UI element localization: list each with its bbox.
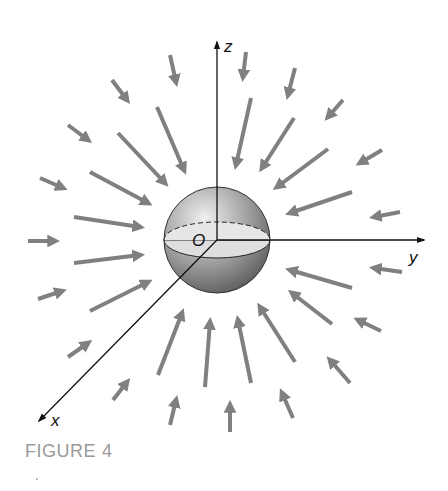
- origin-label: O: [192, 231, 205, 250]
- field-arrow-long: [74, 217, 140, 227]
- field-arrow-long: [205, 322, 210, 387]
- field-arrow-long: [90, 172, 148, 203]
- caption-label: FIGURE: [25, 441, 96, 461]
- field-arrow-long: [157, 107, 184, 170]
- field-arrow-long: [158, 313, 182, 375]
- field-arrow-short: [68, 125, 88, 140]
- field-arrow-long: [290, 270, 352, 288]
- field-arrow-long: [238, 320, 251, 383]
- field-arrow-short: [374, 212, 400, 217]
- vector-field-figure: z y x O: [0, 0, 448, 491]
- stray-mark: [36, 478, 38, 480]
- field-arrow-short: [328, 100, 343, 117]
- x-axis-label: x: [50, 411, 60, 430]
- field-arrow-short: [243, 52, 246, 77]
- field-arrow-long: [260, 307, 295, 362]
- field-arrow-short: [38, 291, 62, 299]
- z-axis-label: z: [223, 37, 233, 56]
- field-arrow-long: [236, 98, 251, 165]
- field-arrow-short: [113, 382, 127, 400]
- field-arrow-short: [68, 343, 88, 357]
- field-arrow-short: [374, 268, 402, 272]
- field-arrow-short: [330, 360, 350, 383]
- field-arrow-short: [288, 68, 295, 95]
- field-arrow-long: [90, 282, 148, 311]
- x-axis: [39, 240, 217, 421]
- field-arrow-short: [360, 150, 382, 163]
- field-arrow-short: [40, 178, 63, 188]
- field-arrow-short: [170, 55, 176, 82]
- field-arrow-long: [292, 293, 332, 324]
- caption-number: 4: [102, 441, 113, 461]
- field-arrow-long: [74, 255, 140, 263]
- field-arrow-short: [358, 320, 381, 331]
- field-arrow-long: [118, 133, 165, 183]
- field-arrow-long: [262, 118, 294, 168]
- field-arrow-short: [282, 393, 293, 418]
- figure-caption: FIGURE4: [25, 441, 113, 462]
- field-arrow-long: [290, 192, 352, 213]
- field-arrow-long: [277, 149, 328, 187]
- field-arrow-short: [170, 400, 176, 425]
- field-arrow-short: [112, 80, 127, 100]
- y-axis-label: y: [408, 248, 419, 267]
